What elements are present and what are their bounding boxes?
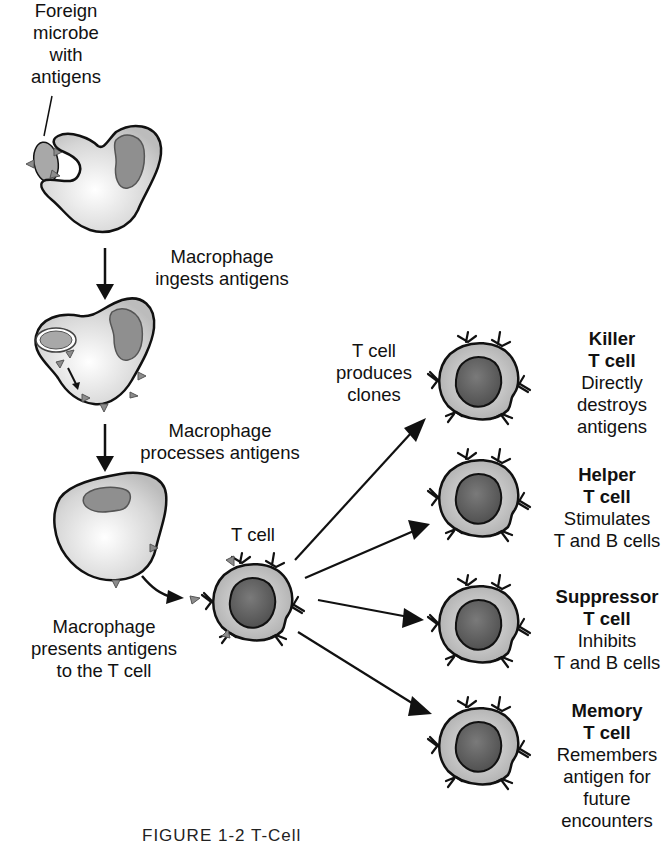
label-line: antigens [8, 66, 124, 88]
label-line: T cell [218, 524, 288, 546]
arrow-present-icon [166, 590, 184, 604]
label-step2-processes: Macrophage processes antigens [120, 420, 320, 464]
label-line: encounters [546, 810, 668, 832]
label-line: microbe [8, 22, 124, 44]
label-foreign-microbe: Foreign microbe with antigens [8, 0, 124, 88]
label-line: destroys [556, 394, 668, 416]
label-line: presents antigens [14, 638, 194, 660]
label-line: Foreign [8, 0, 124, 22]
central-t-cell-icon [202, 553, 304, 645]
label-line: to the T cell [14, 660, 194, 682]
label-t-cell: T cell [218, 524, 288, 546]
presented-antigen-icon [190, 596, 200, 604]
label-step1-ingests: Macrophage ingests antigens [134, 246, 310, 290]
arrow-step2-icon [96, 456, 114, 472]
microbe-pointer-line [44, 96, 52, 136]
macrophage-ingesting-icon [41, 126, 161, 232]
label-step3-presents: Macrophage presents antigens to the T ce… [14, 616, 194, 682]
t-cell-diagram: Foreign microbe with antigens Macrophage… [0, 0, 672, 842]
label-line: Macrophage [120, 420, 320, 442]
label-line: produces [326, 362, 422, 384]
helper-t-cell-icon [428, 449, 530, 541]
label-suppressor-t-cell: Suppressor T cell Inhibits T and B cells [540, 586, 672, 674]
label-line: antigens [556, 416, 668, 438]
label-produces-clones: T cell produces clones [326, 340, 422, 406]
label-line: Stimulates [540, 508, 672, 530]
killer-t-cell-icon [428, 332, 530, 424]
cell-type-suffix: T cell [546, 722, 668, 744]
arrow-step1-head [96, 284, 114, 300]
label-line: T cell [326, 340, 422, 362]
suppressor-t-cell-icon [428, 575, 530, 667]
label-killer-t-cell: Killer T cell Directly destroys antigens [556, 328, 668, 438]
label-line: with [8, 44, 124, 66]
label-line: ingests antigens [134, 268, 310, 290]
label-line: antigen for [546, 766, 668, 788]
label-line: T and B cells [540, 530, 672, 552]
memory-t-cell-icon [428, 697, 530, 789]
cell-type-name: Suppressor [540, 586, 672, 608]
cell-type-suffix: T cell [540, 608, 672, 630]
arrow-to-helper [305, 530, 416, 578]
figure-caption: FIGURE 1-2 T-Cell [142, 826, 301, 842]
label-memory-t-cell: Memory T cell Remembers antigen for futu… [546, 700, 668, 832]
label-line: Macrophage [14, 616, 194, 638]
macrophage-presenting-icon [54, 473, 166, 588]
label-line: future [546, 788, 668, 810]
cell-type-name: Killer [556, 328, 668, 350]
label-line: Directly [556, 372, 668, 394]
label-line: processes antigens [120, 442, 320, 464]
label-line: Inhibits [540, 630, 672, 652]
arrow-to-suppressor [318, 600, 414, 618]
label-line: Remembers [546, 744, 668, 766]
label-line: T and B cells [540, 652, 672, 674]
label-line: Macrophage [134, 246, 310, 268]
label-line: clones [326, 384, 422, 406]
cell-type-suffix: T cell [540, 486, 672, 508]
macrophage-processing-icon [35, 298, 154, 412]
label-helper-t-cell: Helper T cell Stimulates T and B cells [540, 464, 672, 552]
cell-type-name: Helper [540, 464, 672, 486]
cell-type-suffix: T cell [556, 350, 668, 372]
cell-type-name: Memory [546, 700, 668, 722]
arrow-to-memory [298, 632, 420, 708]
